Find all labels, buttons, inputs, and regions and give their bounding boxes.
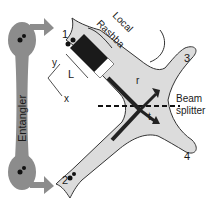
lead-label-1: 1 xyxy=(62,28,68,40)
arrow-label-t: t xyxy=(148,111,151,122)
beam-splitter-label-line2: splitter xyxy=(176,105,206,116)
entangler-label: Entangler xyxy=(16,95,28,142)
axis-label-L: L xyxy=(68,68,74,80)
lead-label-2: 2 xyxy=(62,174,68,186)
axis-label-x: x xyxy=(64,93,69,104)
axis-label-y: y xyxy=(52,57,57,68)
entangler: Entangler xyxy=(8,18,54,194)
lead-label-3: 3 xyxy=(184,52,190,64)
beam-splitter-diagram: Entangler y x L r t 1 2 3 4 Local Rashba… xyxy=(0,0,216,210)
beam-splitter-label-line1: Beam xyxy=(176,93,202,104)
lead-label-4: 4 xyxy=(184,150,190,162)
